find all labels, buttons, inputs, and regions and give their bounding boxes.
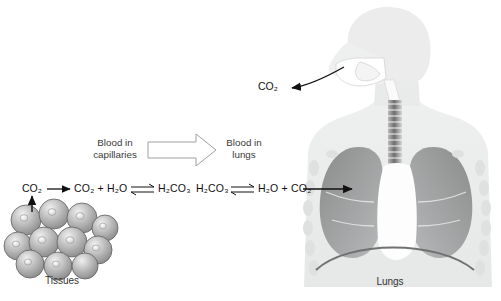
equilibrium-arrow-1 (131, 184, 154, 195)
co2-from-tissues-label: CO₂ (22, 182, 42, 194)
blood-in-capillaries-label: Blood in capillaries (86, 137, 144, 161)
lungs-label: Lungs (350, 276, 430, 287)
equation-term-carbonic-acid-2: H₂CO₃ (196, 182, 229, 194)
lungs-line-2: lungs (232, 149, 255, 160)
equilibrium-arrow-2 (231, 184, 254, 195)
equation-term-co2-water: CO₂ + H₂O (74, 182, 127, 194)
lungs-line-1: Blood in (226, 137, 261, 148)
capillaries-line-1: Blood in (97, 137, 132, 148)
exhaled-co2-label: CO₂ (258, 80, 278, 92)
exhaled-co2-arrow (292, 67, 344, 88)
equation-term-water-co2: H₂O + CO₂ (258, 182, 311, 194)
tissues-label: Tissues (22, 275, 102, 286)
diagram-canvas: CO₂ CO₂ + H₂O H₂CO₃ H₂CO₃ H₂O + CO₂ Bloo… (0, 0, 501, 301)
blood-flow-block-arrow (148, 134, 216, 166)
blood-in-lungs-label: Blood in lungs (218, 137, 270, 161)
capillaries-line-2: capillaries (93, 149, 137, 160)
equation-term-carbonic-acid-1: H₂CO₃ (158, 182, 191, 194)
